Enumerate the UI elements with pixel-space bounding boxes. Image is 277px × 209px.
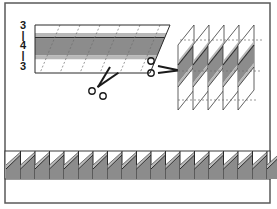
segment-3 (208, 25, 224, 110)
segment-1 (178, 25, 194, 110)
quilt-diagram: 3 | 4 | 3 (0, 0, 277, 209)
strip-width-label-3: 3 (18, 61, 28, 72)
strip-set (30, 25, 175, 73)
segment-5 (238, 25, 254, 110)
diagram-canvas (0, 0, 277, 209)
segment-2 (193, 25, 209, 110)
segment-4 (223, 25, 239, 110)
sawtooth-border (5, 151, 277, 179)
